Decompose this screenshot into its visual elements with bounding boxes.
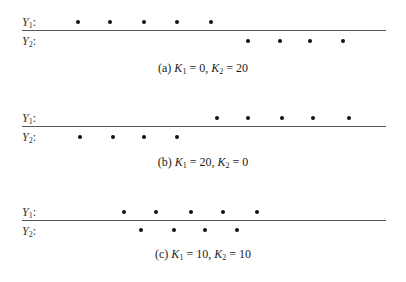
data-point [122, 210, 126, 214]
data-point [203, 228, 207, 232]
data-point [142, 135, 146, 139]
data-point [111, 135, 115, 139]
data-point [221, 210, 225, 214]
data-point [308, 39, 312, 43]
data-point [175, 135, 179, 139]
data-point [76, 20, 80, 24]
data-point [209, 20, 213, 24]
data-point [347, 116, 351, 120]
data-point [154, 210, 158, 214]
panel-b: Y1: Y2: (b) K1 = 20, K2 = 0 [0, 96, 406, 190]
data-point [280, 116, 284, 120]
data-point [139, 228, 143, 232]
y2-label: Y2: [22, 131, 36, 147]
data-point [278, 39, 282, 43]
panel-c: Y1: Y2: (c) K1 = 10, K2 = 10 [0, 190, 406, 282]
data-point [142, 20, 146, 24]
caption-b: (b) K1 = 20, K2 = 0 [0, 156, 406, 172]
caption-a: (a) K1 = 0, K2 = 20 [0, 62, 406, 78]
data-point [175, 20, 179, 24]
y2-label: Y2: [22, 35, 36, 51]
caption-c: (c) K1 = 10, K2 = 10 [0, 248, 406, 264]
data-point [108, 20, 112, 24]
data-point [311, 116, 315, 120]
data-point [78, 135, 82, 139]
data-point [246, 39, 250, 43]
data-point [215, 116, 219, 120]
data-point [235, 228, 239, 232]
separator-line [22, 220, 386, 221]
data-point [172, 228, 176, 232]
panel-a: Y1: Y2: (a) K1 = 0, K2 = 20 [0, 0, 406, 94]
data-point [341, 39, 345, 43]
y2-label: Y2: [22, 225, 36, 241]
separator-line [22, 126, 386, 127]
data-point [246, 116, 250, 120]
data-point [255, 210, 259, 214]
separator-line [22, 30, 386, 31]
data-point [189, 210, 193, 214]
